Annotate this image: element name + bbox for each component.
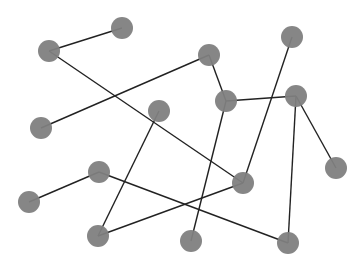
graph-edge-n12-n10 [29, 172, 99, 202]
graph-node-n6 [285, 85, 307, 107]
graph-edge-n5-n14 [191, 101, 226, 241]
graph-node-n5 [215, 90, 237, 112]
graph-edge-n1-n11 [49, 51, 243, 183]
graph-node-n14 [180, 230, 202, 252]
graph-edge-n4-n11 [243, 37, 292, 183]
graph-node-n3 [198, 44, 220, 66]
graph-node-n1 [38, 40, 60, 62]
graph-node-n11 [232, 172, 254, 194]
graph-edge-n6-n9 [296, 96, 336, 168]
graph-node-n8 [148, 100, 170, 122]
graph-edge-n1-n2 [49, 28, 122, 51]
graph-nodes [18, 17, 347, 254]
graph-node-n10 [88, 161, 110, 183]
graph-node-n13 [87, 225, 109, 247]
graph-node-n9 [325, 157, 347, 179]
graph-node-n15 [277, 232, 299, 254]
network-graph [0, 0, 364, 265]
graph-edges [29, 28, 336, 243]
graph-edge-n6-n15 [288, 96, 296, 243]
graph-node-n4 [281, 26, 303, 48]
graph-node-n12 [18, 191, 40, 213]
graph-edge-n7-n3 [41, 55, 209, 128]
graph-node-n7 [30, 117, 52, 139]
graph-node-n2 [111, 17, 133, 39]
